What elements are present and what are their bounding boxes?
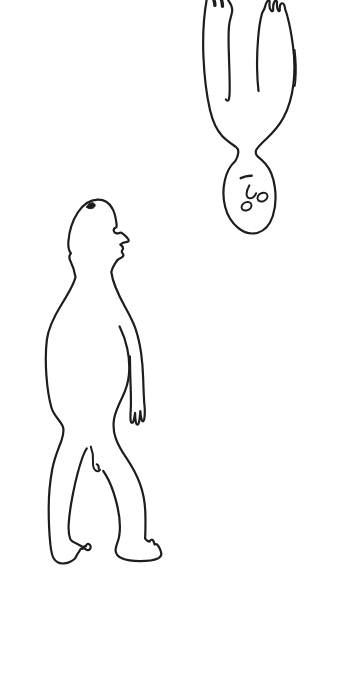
head-ink-blob (87, 203, 96, 209)
chest-hip-front-leg-foot (103, 327, 161, 562)
left-hand-finger-mark-1 (214, 0, 215, 5)
standing-figure (46, 200, 162, 564)
head-back-body-back-leg-outline (46, 200, 112, 564)
mouth-line (241, 176, 252, 178)
left-hand-finger-mark-2 (222, 0, 223, 6)
face-profile-neck-arm-hand (111, 208, 144, 425)
eye-right (257, 193, 267, 202)
line-drawing-canvas (0, 0, 354, 679)
nose-line (247, 185, 257, 198)
crotch-mark (97, 464, 99, 469)
left-inner-arm (226, 0, 232, 100)
inverted-figure (203, 0, 296, 233)
eye-left (242, 202, 252, 211)
sketch-page (0, 0, 354, 679)
